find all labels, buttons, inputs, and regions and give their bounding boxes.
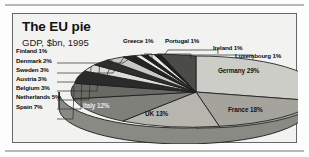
callout-label-greece: Greece 1% xyxy=(123,37,153,44)
slice-label-france: France 18% xyxy=(228,106,263,113)
chart-panel: The EU pie GDP, $bn, 1995 xyxy=(12,13,297,143)
callout-label-belgium: Belgium 3% xyxy=(16,84,50,91)
callout-label-sweden: Sweden 3% xyxy=(16,66,49,73)
pie-chart-graphic xyxy=(13,14,298,144)
slice-label-italy: Italy 12% xyxy=(83,102,109,109)
figure-page: The EU pie GDP, $bn, 1995 xyxy=(0,0,309,157)
top-divider-rule xyxy=(5,4,304,6)
callout-label-austria: Austria 3% xyxy=(16,75,46,82)
callout-label-spain: Spain 7% xyxy=(16,103,42,110)
slice-label-germany: Germany 29% xyxy=(218,67,259,74)
callout-label-finland: Finland 1% xyxy=(16,47,47,54)
callout-label-denmark: Denmark 2% xyxy=(16,57,52,64)
callout-label-ireland: Ireland 1% xyxy=(213,44,242,51)
callout-label-portugal: Portugal 1% xyxy=(165,37,199,44)
callout-label-luxembourg: Luxembourg 1% xyxy=(235,52,281,59)
callout-label-netherlands: Netherlands 5% xyxy=(16,93,60,100)
pie-slices xyxy=(71,54,298,127)
slice-label-uk: UK 13% xyxy=(145,110,168,117)
bottom-divider-rule xyxy=(5,150,304,152)
